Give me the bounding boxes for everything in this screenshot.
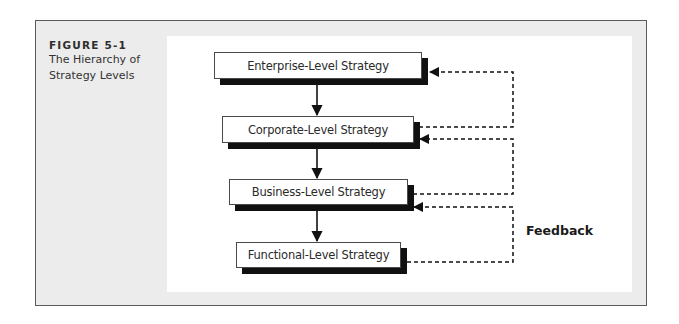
business-level-box: Business-Level Strategy — [229, 179, 408, 205]
figure-caption: FIGURE 5-1 The Hierarchy of Strategy Lev… — [49, 38, 140, 84]
business-level-label: Business-Level Strategy — [252, 185, 386, 199]
functional-level-label: Functional-Level Strategy — [248, 248, 390, 262]
figure-number: FIGURE 5-1 — [49, 38, 140, 52]
enterprise-level-box: Enterprise-Level Strategy — [214, 52, 422, 79]
figure-title-line1: The Hierarchy of — [49, 52, 140, 68]
functional-level-box: Functional-Level Strategy — [236, 242, 401, 268]
enterprise-level-label: Enterprise-Level Strategy — [247, 59, 389, 73]
corporate-level-box: Corporate-Level Strategy — [222, 116, 414, 143]
corporate-level-label: Corporate-Level Strategy — [248, 123, 388, 137]
feedback-label: Feedback — [526, 223, 593, 238]
figure-title-line2: Strategy Levels — [49, 68, 140, 84]
